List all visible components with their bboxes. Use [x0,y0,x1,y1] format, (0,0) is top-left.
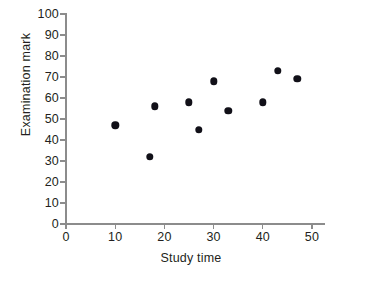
y-axis-title: Examination mark [20,15,33,155]
y-tick [60,97,65,98]
x-tick [65,224,66,229]
x-tick-label: 20 [149,231,179,244]
y-tick-label: 100 [38,8,59,21]
y-tick [60,160,65,161]
y-tick [60,76,65,77]
plot-area [66,14,312,224]
y-tick-label: 60 [45,92,59,105]
y-tick [60,118,65,119]
y-tick [60,55,65,56]
y-tick-label: 40 [45,134,59,147]
y-tick [60,202,65,203]
x-tick-label: 0 [51,231,81,244]
scatter-chart: 0102030405060708090100 01020304050 Exami… [0,0,390,282]
x-tick [164,224,165,229]
x-tick [262,224,263,229]
x-axis-title: Study time [66,252,316,265]
y-tick-label: 70 [45,71,59,84]
x-tick-label: 40 [248,231,278,244]
x-tick [115,224,116,229]
y-tick-label: 30 [45,155,59,168]
y-tick [60,181,65,182]
x-tick-label: 30 [199,231,229,244]
x-tick [311,224,312,229]
x-tick-label: 10 [100,231,130,244]
y-tick-label: 50 [45,113,59,126]
y-tick-label: 0 [52,218,59,231]
y-tick [60,13,65,14]
y-tick [60,223,65,224]
x-tick-label: 50 [297,231,327,244]
y-tick [60,34,65,35]
y-tick-label: 90 [45,29,59,42]
y-tick-label: 20 [45,176,59,189]
x-tick [213,224,214,229]
y-tick-label: 10 [45,197,59,210]
y-tick-label: 80 [45,50,59,63]
y-tick [60,139,65,140]
